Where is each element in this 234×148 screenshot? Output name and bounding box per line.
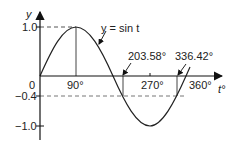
annotation-336: 336.42°	[175, 50, 213, 62]
sine-chart: y 1.0 −0.4 −1.0 0 90° 270° 360° t° y = s…	[0, 0, 234, 148]
xtick-360: 360°	[189, 79, 212, 91]
ytick-neg1: −1.0	[15, 120, 37, 132]
curve-label: y = sin t	[101, 22, 139, 34]
t-axis-label: t°	[218, 83, 226, 95]
origin-label: 0	[29, 79, 35, 91]
xtick-90: 90°	[67, 79, 84, 91]
xtick-270: 270°	[141, 79, 164, 91]
ann1-leader	[123, 63, 131, 75]
y-axis-label: y	[25, 8, 33, 20]
annotation-203: 203.58°	[128, 50, 166, 62]
ytick-neg04: −0.4	[15, 90, 37, 102]
ann2-leader	[178, 64, 186, 75]
ytick-1: 1.0	[22, 21, 37, 33]
